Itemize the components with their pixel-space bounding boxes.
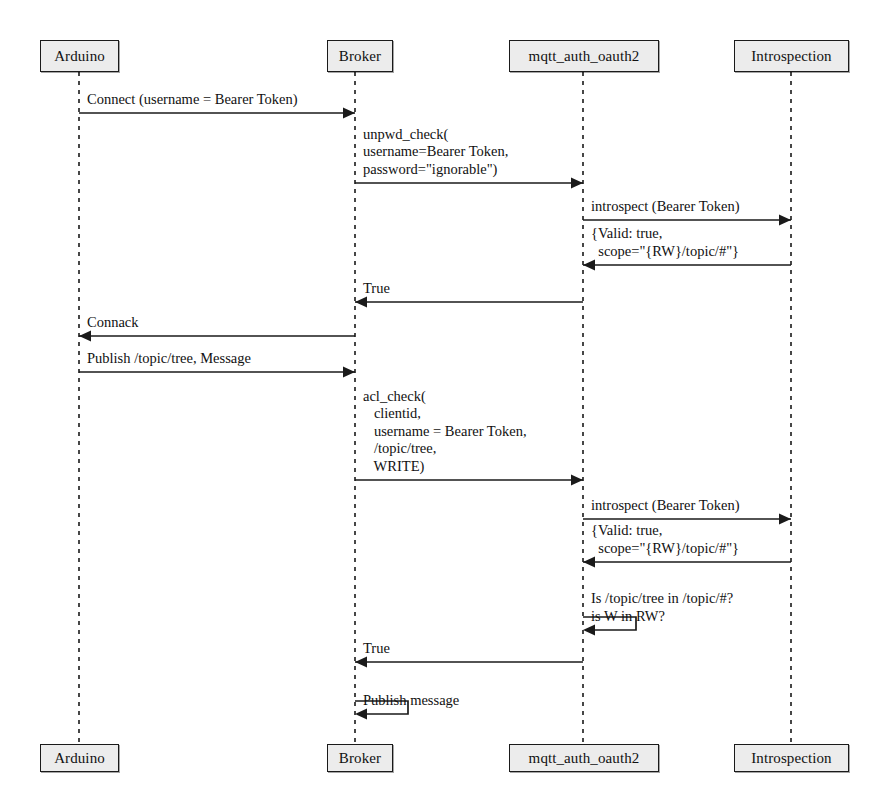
participant-box-mqtt-auth-oauth2-bottom[interactable]: mqtt_auth_oauth2 (509, 744, 659, 772)
message-8-call (355, 475, 583, 486)
message-label-line: {Valid: true, (591, 225, 739, 243)
message-label-11: Is /topic/tree in /topic/#?is W in RW? (591, 590, 733, 625)
arrowhead (343, 108, 355, 119)
arrowhead (355, 657, 367, 668)
message-label-12: True (363, 640, 390, 657)
arrowhead (79, 331, 91, 342)
participant-label: Introspection (751, 49, 831, 64)
message-label-line: Publish message (363, 692, 459, 709)
message-label-line: scope="{RW}/topic/#"} (591, 243, 739, 261)
arrowhead (583, 557, 595, 568)
message-label-line: username = Bearer Token, (363, 423, 527, 441)
participant-label: mqtt_auth_oauth2 (529, 49, 640, 64)
message-label-line: introspect (Bearer Token) (591, 198, 740, 215)
participant-label: mqtt_auth_oauth2 (529, 751, 640, 766)
message-label-line: WRITE) (363, 458, 527, 476)
message-10-return (583, 557, 791, 568)
arrowhead (779, 514, 791, 525)
message-label-line: scope="{RW}/topic/#"} (591, 540, 739, 558)
participant-label: Broker (339, 751, 381, 766)
message-label-line: password="ignorable") (363, 161, 508, 179)
arrowhead (343, 367, 355, 378)
message-label-line: username=Bearer Token, (363, 143, 508, 161)
participant-box-arduino-top[interactable]: Arduino (40, 40, 119, 72)
message-label-1: Connect (username = Bearer Token) (87, 91, 298, 108)
participant-label: Arduino (54, 751, 105, 766)
participant-box-broker-bottom[interactable]: Broker (327, 744, 393, 772)
participant-label: Arduino (54, 49, 105, 64)
message-label-3: introspect (Bearer Token) (591, 198, 740, 215)
message-label-line: unpwd_check( (363, 126, 508, 144)
message-label-7: Publish /topic/tree, Message (87, 350, 251, 367)
arrowhead (571, 178, 583, 189)
message-label-line: /topic/tree, (363, 440, 527, 458)
message-label-line: Connack (87, 314, 139, 331)
participant-box-arduino-bottom[interactable]: Arduino (40, 744, 119, 772)
message-label-line: introspect (Bearer Token) (591, 497, 740, 514)
message-label-6: Connack (87, 314, 139, 331)
message-2-call (355, 178, 583, 189)
message-label-line: clientid, (363, 405, 527, 423)
message-label-line: {Valid: true, (591, 522, 739, 540)
arrowhead (571, 475, 583, 486)
message-label-4: {Valid: true, scope="{RW}/topic/#"} (591, 225, 739, 260)
arrowhead (355, 709, 367, 720)
message-label-line: Is /topic/tree in /topic/#? (591, 590, 733, 608)
message-label-line: acl_check( (363, 388, 527, 406)
message-label-10: {Valid: true, scope="{RW}/topic/#"} (591, 522, 739, 557)
arrowhead (583, 625, 595, 636)
participant-label: Introspection (751, 751, 831, 766)
arrowhead (779, 215, 791, 226)
message-label-8: acl_check( clientid, username = Bearer T… (363, 388, 527, 476)
participant-box-introspection-bottom[interactable]: Introspection (734, 744, 849, 772)
message-label-line: Publish /topic/tree, Message (87, 350, 251, 367)
participant-box-mqtt-auth-oauth2-top[interactable]: mqtt_auth_oauth2 (509, 40, 659, 72)
message-label-2: unpwd_check(username=Bearer Token,passwo… (363, 126, 508, 179)
message-label-13: Publish message (363, 692, 459, 709)
message-label-line: True (363, 280, 390, 297)
participant-label: Broker (339, 49, 381, 64)
message-4-return (583, 260, 791, 271)
message-1-call (79, 108, 355, 119)
sequence-diagram-canvas: Arduino Broker mqtt_auth_oauth2 Introspe… (0, 0, 882, 810)
arrowhead (583, 260, 595, 271)
message-label-5: True (363, 280, 390, 297)
message-label-line: True (363, 640, 390, 657)
message-3-call (583, 215, 791, 226)
arrowhead (355, 297, 367, 308)
message-5-return (355, 297, 583, 308)
participant-box-broker-top[interactable]: Broker (327, 40, 393, 72)
message-6-return (79, 331, 355, 342)
message-label-line: is W in RW? (591, 608, 733, 626)
participant-box-introspection-top[interactable]: Introspection (734, 40, 849, 72)
message-12-return (355, 657, 583, 668)
message-label-9: introspect (Bearer Token) (591, 497, 740, 514)
message-label-line: Connect (username = Bearer Token) (87, 91, 298, 108)
message-7-call (79, 367, 355, 378)
